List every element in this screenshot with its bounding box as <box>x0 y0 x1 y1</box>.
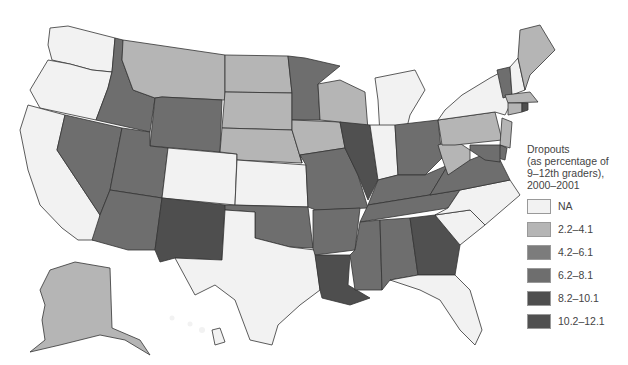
state-sd <box>222 92 292 130</box>
legend-label: 6.2–8.1 <box>558 269 593 281</box>
state-ct <box>508 103 522 115</box>
legend-item-4-6: 4.2–6.1 <box>527 243 627 261</box>
state-ri <box>522 103 528 112</box>
legend-item-na: NA <box>527 197 627 215</box>
state-hi-island <box>188 322 193 327</box>
legend-swatch <box>527 199 551 214</box>
state-co <box>162 148 237 205</box>
state-wy <box>150 97 222 152</box>
legend-title-line: Dropouts <box>527 143 627 155</box>
legend-title-line: 9–12th graders), <box>527 167 627 179</box>
legend-title-line: (as percentage of <box>527 155 627 167</box>
state-fl <box>390 275 482 345</box>
legend-label: 8.2–10.1 <box>558 292 599 304</box>
state-ks <box>235 160 308 207</box>
state-hi-island <box>170 316 175 321</box>
legend-swatch <box>527 314 551 329</box>
legend-swatch <box>527 268 551 283</box>
legend-label: 4.2–6.1 <box>558 246 593 258</box>
state-nj <box>500 118 512 148</box>
legend-item-10-12: 10.2–12.1 <box>527 312 627 330</box>
legend-label: NA <box>558 200 573 212</box>
legend-item-6-8: 6.2–8.1 <box>527 266 627 284</box>
state-hi <box>212 328 225 345</box>
legend-label: 10.2–12.1 <box>558 315 605 327</box>
state-hi-island <box>199 327 205 333</box>
state-nd <box>225 55 292 93</box>
legend: Dropouts (as percentage of 9–12th grader… <box>527 143 627 335</box>
legend-title-line: 2000–2001 <box>527 179 627 191</box>
state-oh <box>395 120 442 175</box>
state-nm <box>155 198 225 262</box>
legend-swatch <box>527 245 551 260</box>
state-me <box>518 25 555 90</box>
state-ak <box>30 262 150 355</box>
legend-title: Dropouts (as percentage of 9–12th grader… <box>527 143 627 191</box>
legend-item-2-4: 2.2–4.1 <box>527 220 627 238</box>
state-ar <box>313 208 360 255</box>
legend-swatch <box>527 222 551 237</box>
legend-label: 2.2–4.1 <box>558 223 593 235</box>
state-mt <box>122 40 225 100</box>
legend-item-8-10: 8.2–10.1 <box>527 289 627 307</box>
legend-swatch <box>527 291 551 306</box>
